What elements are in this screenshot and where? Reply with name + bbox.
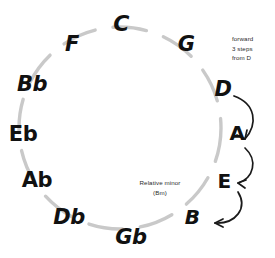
note-label-gb: Gb bbox=[115, 227, 146, 248]
note-label-eb: Eb bbox=[9, 124, 37, 145]
note-label-a: A bbox=[230, 123, 245, 143]
note-label-c: C bbox=[113, 13, 129, 35]
circle-of-fifths-diagram: C G D A E B Gb Db Ab Eb Bb F forward 3 s… bbox=[0, 0, 275, 258]
note-label-db: Db bbox=[53, 207, 84, 228]
annotation-relative-minor: Relative minor (Bm) bbox=[140, 178, 181, 197]
arrow-a-to-e-icon bbox=[238, 148, 253, 188]
note-label-b: B bbox=[185, 207, 200, 227]
note-label-ab: Ab bbox=[22, 170, 52, 191]
annotation-forward-steps: forward 3 steps from D bbox=[232, 34, 253, 63]
note-label-g: G bbox=[178, 34, 195, 55]
circle-of-fifths-ring bbox=[19, 27, 221, 229]
note-label-e: E bbox=[217, 171, 230, 191]
arrow-e-to-b-icon bbox=[215, 192, 242, 227]
note-label-d: D bbox=[215, 79, 232, 100]
note-label-bb: Bb bbox=[17, 74, 47, 95]
note-label-f: F bbox=[65, 34, 79, 55]
